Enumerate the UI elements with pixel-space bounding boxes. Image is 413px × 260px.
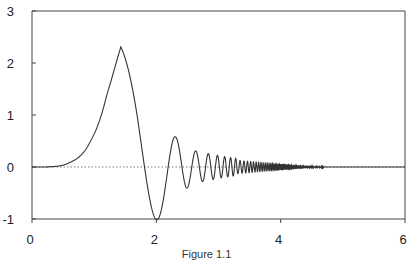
x-tick-label: 2 <box>151 232 158 247</box>
y-tick-label: 2 <box>7 56 14 71</box>
y-tick-label: 0 <box>7 160 14 175</box>
figure-caption: Figure 1.1 <box>0 248 413 260</box>
x-ticks: 0246 <box>26 219 406 247</box>
y-tick-label: -1 <box>2 212 14 227</box>
x-tick-label: 0 <box>26 232 33 247</box>
plot-frame <box>32 11 405 219</box>
x-tick-label: 6 <box>399 232 406 247</box>
x-tick-label: 4 <box>275 232 282 247</box>
y-tick-label: 1 <box>7 108 14 123</box>
y-ticks: 3210-1 <box>2 4 36 227</box>
y-tick-label: 3 <box>7 4 14 19</box>
data-series-line <box>32 47 405 220</box>
